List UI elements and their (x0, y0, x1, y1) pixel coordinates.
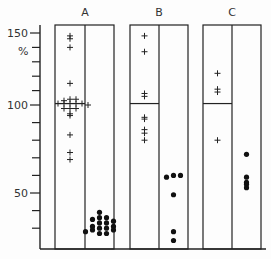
cross-marker (67, 157, 73, 163)
dot-marker (83, 229, 88, 234)
y-tick-label: 100 (7, 99, 28, 112)
dot-plot: 50100150%ABC (0, 0, 271, 259)
dot-marker (104, 220, 109, 225)
dot-marker (171, 173, 176, 178)
dot-marker (171, 229, 176, 234)
cross-marker (61, 106, 67, 112)
cross-marker (85, 102, 91, 108)
dot-marker (97, 226, 102, 231)
cross-marker (67, 44, 73, 50)
dot-marker (90, 227, 95, 232)
cross-marker (67, 106, 73, 112)
figure: 50100150%ABC (0, 0, 271, 259)
dot-marker (97, 231, 102, 236)
cross-marker (142, 93, 148, 99)
cross-marker (79, 101, 85, 107)
dot-marker (104, 226, 109, 231)
dot-marker (171, 192, 176, 197)
dot-marker (244, 152, 249, 157)
cross-marker (73, 106, 79, 112)
dot-marker (164, 175, 169, 180)
cross-marker (67, 132, 73, 138)
dot-marker (97, 220, 102, 225)
group-label-b: B (155, 6, 163, 19)
dot-marker (111, 227, 116, 232)
dot-marker (244, 185, 249, 190)
cross-marker (67, 150, 73, 156)
group-label-c: C (228, 6, 236, 19)
dot-marker (97, 210, 102, 215)
cross-marker (215, 137, 221, 143)
cross-marker (55, 101, 61, 107)
cross-marker (215, 89, 221, 95)
group-label-a: A (81, 6, 89, 19)
dot-marker (171, 238, 176, 243)
dot-marker (97, 215, 102, 220)
y-axis-unit: % (18, 45, 28, 58)
cross-marker (142, 137, 148, 143)
cross-marker (67, 80, 73, 86)
cross-marker (142, 130, 148, 136)
dot-marker (178, 173, 183, 178)
dot-marker (90, 217, 95, 222)
cross-marker (67, 36, 73, 42)
y-tick-label: 50 (14, 187, 28, 200)
dot-marker (104, 231, 109, 236)
dot-marker (104, 215, 109, 220)
dot-marker (244, 175, 249, 180)
cross-marker (142, 33, 148, 39)
y-tick-label: 150 (7, 27, 28, 40)
cross-marker (142, 49, 148, 55)
cross-marker (215, 70, 221, 76)
dot-marker (111, 219, 116, 224)
